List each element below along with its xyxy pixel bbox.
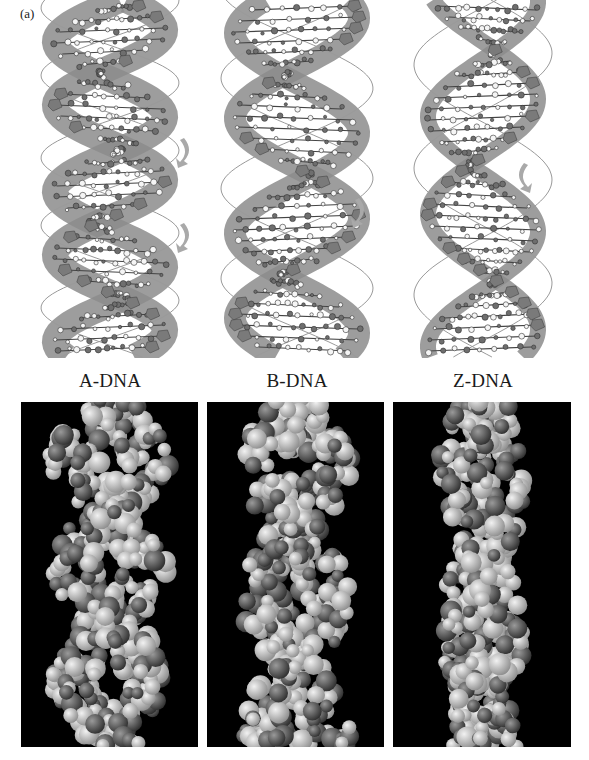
caption-a-dna: A-DNA	[20, 370, 200, 392]
caption-b-dna: B-DNA	[207, 370, 387, 392]
caption-z-dna: Z-DNA	[393, 370, 573, 392]
a-dna-space-filling-model	[21, 402, 198, 747]
b-dna-ribbon-diagram	[207, 0, 387, 358]
z-dna-space-filling-model	[393, 402, 571, 747]
b-dna-space-filling-model	[207, 402, 384, 747]
a-dna-ribbon-diagram	[20, 0, 200, 358]
z-dna-ribbon-diagram	[393, 0, 573, 358]
